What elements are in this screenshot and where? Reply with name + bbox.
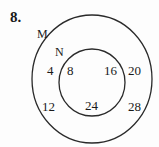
element-4: 4 [47, 64, 54, 77]
set-label-m: M [37, 28, 48, 40]
venn-diagram-figure: 8. M N 4 8 16 20 12 24 28 [0, 0, 159, 147]
element-8: 8 [67, 64, 74, 77]
question-number: 8. [10, 10, 21, 25]
element-28: 28 [128, 100, 141, 113]
element-12: 12 [42, 100, 55, 113]
set-label-n: N [55, 46, 64, 58]
element-20: 20 [128, 64, 141, 77]
element-16: 16 [104, 64, 117, 77]
set-m-outer-circle [32, 15, 152, 143]
element-24: 24 [85, 99, 98, 112]
